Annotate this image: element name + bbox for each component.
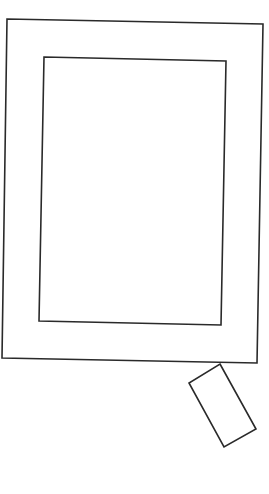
inner-frame — [39, 57, 226, 325]
line-drawing — [0, 0, 269, 494]
drawing-canvas — [0, 0, 269, 494]
small-tilted-rectangle — [189, 364, 256, 447]
